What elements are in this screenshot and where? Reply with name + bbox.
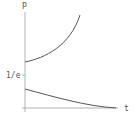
series-decaying-curve	[25, 89, 116, 108]
series-growing-curve	[25, 15, 80, 62]
x-axis-label: t	[124, 104, 129, 113]
y-tick-label: 1/e	[6, 71, 21, 80]
y-axis-label: P	[22, 2, 27, 11]
chart: P t 1/e	[0, 0, 137, 119]
